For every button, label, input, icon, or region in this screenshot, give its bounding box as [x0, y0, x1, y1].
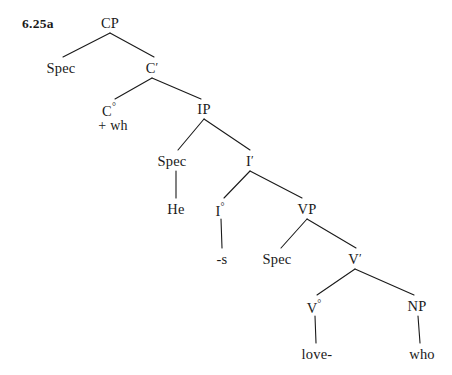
tree-node-text: VP [298, 201, 317, 217]
tree-node-text: CP [101, 15, 119, 31]
tree-node-text: V [307, 300, 318, 316]
tree-edges-canvas [0, 0, 452, 375]
tree-branch-ibar-vp [250, 171, 302, 198]
tree-branch-ibar-i0 [224, 171, 250, 198]
tree-node-ip: IP [197, 102, 210, 117]
tree-node-text: who [409, 346, 435, 362]
tree-node-he: He [167, 202, 184, 217]
tree-branch-v0-love [315, 316, 316, 343]
tree-node-text: C [146, 60, 156, 76]
tree-node-cbar: C′ [146, 61, 159, 76]
tree-node-spec_ip: Spec [158, 154, 187, 169]
tree-node-love: love- [302, 347, 333, 362]
head-degree-marker: ° [112, 101, 116, 112]
tree-branch-i0-s [221, 219, 222, 248]
tree-node-v0: V° [307, 299, 322, 315]
tree-node-text: He [167, 201, 184, 217]
tree-node-who: who [409, 347, 435, 362]
head-degree-marker: ° [221, 201, 225, 212]
tree-node-text: NP [408, 298, 427, 314]
tree-branch-vp-vbar [307, 219, 356, 248]
tree-node-ibar: I′ [246, 154, 254, 169]
tree-node-text: Spec [263, 251, 292, 267]
tree-branch-vbar-v0 [317, 269, 355, 295]
bar-level-prime-marker: ′ [251, 153, 254, 167]
tree-branch-ip-ibar [204, 119, 250, 150]
tree-node-spec_vp: Spec [263, 252, 292, 267]
tree-branch-ip-specip [178, 119, 204, 150]
syntax-tree-figure: 6.25a CPSpecC′C°IPSpecI′HeI°VP-sSpecV′V°… [0, 0, 452, 375]
tree-branch-cp-cbar [110, 33, 154, 57]
tree-branch-cbar-ip [152, 78, 201, 99]
tree-node-vbar: V′ [348, 252, 362, 267]
tree-node-c0: C° [102, 102, 116, 118]
tree-node-text: Spec [158, 153, 187, 169]
tree-edge-group [63, 33, 420, 343]
bar-level-prime-marker: ′ [359, 251, 362, 265]
tree-branch-vp-specvp [281, 219, 307, 248]
tree-branch-cp-spec [63, 33, 110, 57]
tree-node-text: IP [197, 101, 210, 117]
tree-node-cp: CP [101, 16, 119, 31]
tree-node-text: C [102, 103, 112, 119]
tree-branch-vbar-np [355, 269, 414, 295]
tree-node-i0: I° [215, 202, 224, 218]
bar-level-prime-marker: ′ [156, 60, 159, 74]
tree-node-np: NP [408, 299, 427, 314]
tree-node-spec_cp: Spec [47, 61, 76, 76]
feature-label-wh_feature: + wh [98, 118, 127, 134]
tree-branch-np-who [418, 316, 420, 343]
tree-node-text: V [348, 251, 359, 267]
head-degree-marker: ° [317, 298, 321, 309]
tree-node-text: Spec [47, 60, 76, 76]
tree-branch-cbar-c0 [115, 78, 152, 99]
tree-node-s_affix: -s [217, 252, 228, 267]
tree-node-text: love- [302, 346, 333, 362]
tree-node-vp: VP [298, 202, 317, 217]
tree-node-text: -s [217, 251, 228, 267]
